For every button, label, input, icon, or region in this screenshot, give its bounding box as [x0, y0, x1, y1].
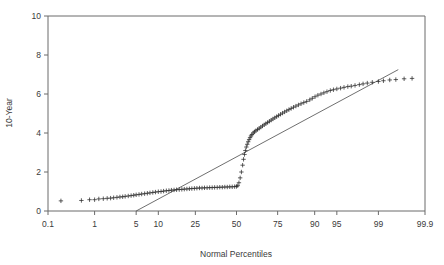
- x-tick-label: 1: [92, 219, 97, 229]
- x-tick-label: 75: [273, 219, 283, 229]
- x-tick-label: 50: [232, 219, 242, 229]
- x-tick-label: 5: [134, 219, 139, 229]
- y-tick-label: 0: [36, 206, 41, 216]
- x-tick-label: 99.9: [417, 219, 434, 229]
- y-tick-label: 6: [36, 89, 41, 99]
- x-tick-label: 10: [154, 219, 164, 229]
- x-tick-label: 0.1: [42, 219, 54, 229]
- x-tick-label: 90: [310, 219, 320, 229]
- y-tick-label: 8: [36, 50, 41, 60]
- x-axis-title: Normal Percentiles: [200, 249, 272, 259]
- x-tick-label: 25: [191, 219, 201, 229]
- y-axis-title: 10-Year: [4, 98, 14, 128]
- normal-probability-plot: 0246810 0.1151025507590959999.9 Normal P…: [0, 0, 444, 265]
- x-tick-label: 95: [332, 219, 342, 229]
- x-tick-label: 99: [374, 219, 384, 229]
- y-tick-label: 2: [36, 167, 41, 177]
- chart-canvas: 0246810 0.1151025507590959999.9 Normal P…: [0, 0, 444, 265]
- y-tick-label: 10: [32, 11, 42, 21]
- y-tick-label: 4: [36, 128, 41, 138]
